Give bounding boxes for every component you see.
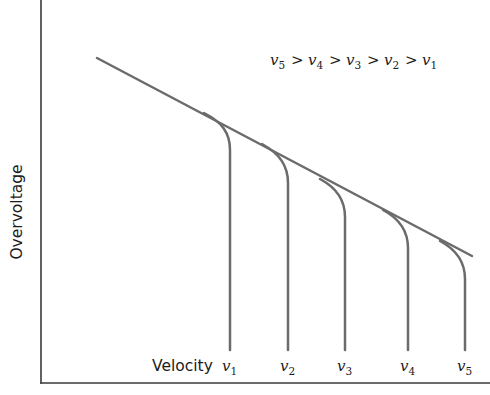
x-tick-labels: v1 v2 v3 v4 v5 bbox=[222, 357, 472, 377]
annotation-gt-2: > bbox=[329, 51, 342, 69]
y-axis-label: Overvoltage bbox=[8, 164, 26, 259]
curve-v4 bbox=[383, 210, 408, 350]
velocity-ordering-group: v5 > v4 > v3 > v2 > v1 bbox=[270, 51, 437, 71]
curve-v2 bbox=[262, 144, 288, 350]
annotation-v5: v5 bbox=[270, 51, 285, 71]
annotation-gt-4: > bbox=[405, 51, 418, 69]
envelope-line bbox=[97, 58, 472, 256]
x-tick-label-v1: v1 bbox=[222, 357, 237, 377]
annotation-v2: v2 bbox=[384, 51, 399, 71]
x-tick-label-v3: v3 bbox=[337, 357, 352, 377]
annotation-gt-3: > bbox=[367, 51, 380, 69]
x-axis-label: Velocity bbox=[152, 357, 213, 375]
annotation-v3: v3 bbox=[346, 51, 361, 71]
x-tick-label-v4: v4 bbox=[400, 357, 415, 377]
curve-v1 bbox=[204, 113, 230, 350]
chart-page: Overvoltage Velocity v1 v2 v3 v4 v5 v5 bbox=[0, 0, 490, 395]
x-tick-label-v2: v2 bbox=[280, 357, 295, 377]
curve-v5 bbox=[440, 241, 465, 350]
annotation-v4: v4 bbox=[308, 51, 323, 71]
overvoltage-velocity-chart: Overvoltage Velocity v1 v2 v3 v4 v5 v5 bbox=[0, 0, 490, 395]
curve-v3 bbox=[320, 179, 345, 350]
annotation-gt-1: > bbox=[291, 51, 304, 69]
annotation-v1: v1 bbox=[422, 51, 437, 71]
x-tick-label-v5: v5 bbox=[457, 357, 472, 377]
